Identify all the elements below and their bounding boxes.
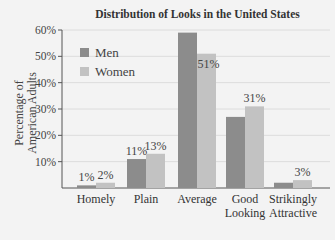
legend-swatch-men [80,48,89,57]
y-tick-label: 30% [35,103,57,115]
y-tick-label: 60% [35,24,57,36]
bar-men [226,117,245,188]
value-label: 31% [244,91,266,105]
legend-swatch-women [80,67,89,76]
bar-men [274,183,293,188]
legend-item-men: Men [80,43,135,62]
bar-women [245,106,264,188]
bar-men [127,159,146,188]
bar-men [77,185,96,188]
value-label: 1% [79,170,95,184]
value-label: 2% [98,168,114,182]
y-tick-label: 40% [35,77,57,89]
value-label: 13% [145,139,167,153]
y-tick-label: 20% [35,129,57,141]
value-label: 3% [295,165,311,179]
bar-women [293,180,312,188]
legend-item-women: Women [80,62,135,81]
legend: Men Women [80,43,135,81]
bar-men [178,33,197,188]
bar-women [146,154,165,188]
bar-women [197,54,216,188]
value-label: 51% [198,57,220,71]
legend-label-men: Men [95,43,119,62]
y-tick-label: 50% [35,50,57,62]
y-tick-label: 10% [35,156,57,168]
x-category-label: StrikinglyAttractive [258,192,328,220]
legend-label-women: Women [95,62,135,81]
bar-women [96,183,115,188]
